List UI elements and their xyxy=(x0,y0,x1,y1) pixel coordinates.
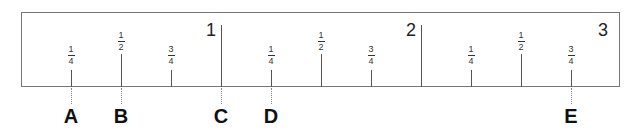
fraction-label: 34 xyxy=(361,45,381,66)
fraction-label: 14 xyxy=(261,45,281,66)
inch-tick-2 xyxy=(421,25,422,87)
quarter-tick xyxy=(71,70,72,87)
quarter-tick xyxy=(571,70,572,87)
point-label-d: D xyxy=(259,106,283,126)
fraction-label: 14 xyxy=(461,45,481,66)
inch-label-3: 3 xyxy=(598,21,608,39)
fraction-label: 14 xyxy=(61,45,81,66)
fraction-label: 12 xyxy=(311,31,331,52)
half-tick xyxy=(121,54,122,87)
point-label-c: C xyxy=(209,106,233,126)
fraction-label: 34 xyxy=(561,45,581,66)
inch-label-1: 1 xyxy=(206,21,216,39)
leader-line-d xyxy=(271,88,272,104)
quarter-tick xyxy=(171,70,172,87)
quarter-tick xyxy=(471,70,472,87)
leader-line-b xyxy=(121,88,122,104)
half-tick xyxy=(321,54,322,87)
point-label-b: B xyxy=(109,106,133,126)
quarter-tick xyxy=(371,70,372,87)
half-tick xyxy=(521,54,522,87)
leader-line-c xyxy=(221,88,222,104)
fraction-label: 12 xyxy=(511,31,531,52)
inch-label-2: 2 xyxy=(406,21,416,39)
point-label-a: A xyxy=(59,106,83,126)
quarter-tick xyxy=(271,70,272,87)
leader-line-e xyxy=(571,88,572,104)
fraction-label: 12 xyxy=(111,31,131,52)
leader-line-a xyxy=(71,88,72,104)
fraction-label: 34 xyxy=(161,45,181,66)
point-label-e: E xyxy=(559,106,583,126)
inch-tick-1 xyxy=(221,25,222,87)
